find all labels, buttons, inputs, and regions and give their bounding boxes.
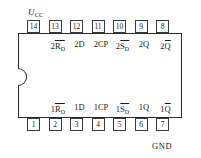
signal-1d: 1D [74,103,84,112]
pin-box-13: 13 [49,20,62,33]
signal-name: RD [55,40,65,51]
gnd-label: GND [152,142,172,151]
signal-name: Q [143,102,149,112]
pin-box-3: 3 [70,118,83,131]
signal-1sd: 1SD [116,103,129,114]
signal-name: CP [98,102,108,112]
ic-pinout-diagram: UCC 141312111098 1234567 2RD2D2CP2SD2Q2Q… [0,0,201,158]
signal-2rd: 2RD [51,40,65,51]
signal-2d: 2D [74,40,84,49]
signal-name: SD [120,40,129,51]
signal-name: D [79,102,85,112]
pin-box-6: 6 [135,118,148,131]
signal-2cp: 2CP [94,40,109,49]
pin-box-8: 8 [156,20,169,33]
pin-box-9: 9 [135,20,148,33]
signal-name: SD [120,103,129,114]
signal-1q: 1Q [139,103,149,112]
signal-1cp: 1CP [94,103,109,112]
pin-box-14: 14 [27,20,40,33]
pin-box-10: 10 [113,20,126,33]
signal-name: Q [143,39,149,49]
pin-box-12: 12 [70,20,83,33]
pin-box-5: 5 [113,118,126,131]
vcc-subscript: CC [35,11,44,18]
signal-name: CP [98,39,108,49]
signal-2q: 2Q [160,40,170,50]
signal-subscript: D [125,108,129,114]
pin-box-1: 1 [27,118,40,131]
signal-name: Q [165,40,171,50]
signal-name: RD [55,103,65,114]
pin-box-4: 4 [92,118,105,131]
pin-box-2: 2 [49,118,62,131]
pin-box-7: 7 [156,118,169,131]
pin-box-11: 11 [92,20,105,33]
signal-name: Q [165,103,171,113]
signal-1rd: 1RD [51,103,65,114]
vcc-supply-label: UCC [28,8,43,18]
signal-2q: 2Q [139,40,149,49]
signal-subscript: D [61,108,65,114]
signal-subscript: D [61,45,65,51]
signal-1q: 1Q [160,103,170,113]
vcc-symbol: U [28,7,35,17]
signal-2sd: 2SD [116,40,129,51]
signal-name: D [79,39,85,49]
signal-subscript: D [125,45,129,51]
